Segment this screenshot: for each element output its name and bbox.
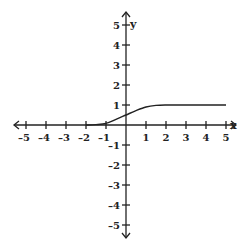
x-tick-label: 1: [143, 132, 150, 143]
x-tick-label: –4: [38, 132, 50, 143]
y-tick-label: 5: [113, 20, 120, 31]
y-tick-label: –3: [108, 180, 120, 191]
x-tick-label: –5: [18, 132, 30, 143]
x-tick-label: 4: [203, 132, 210, 143]
x-tick-label: 2: [163, 132, 170, 143]
y-tick-label: 4: [113, 40, 120, 51]
y-tick-label: –2: [108, 160, 120, 171]
x-axis-label: x: [230, 119, 237, 132]
y-tick-label: –1: [108, 140, 120, 151]
x-tick-label: 3: [183, 132, 190, 143]
y-tick-label: –5: [108, 220, 120, 231]
y-tick-label: 1: [113, 100, 120, 111]
y-axis-label: y: [129, 18, 137, 31]
x-tick-label: –2: [78, 132, 90, 143]
function-graph: –5–4–3–2–11234554321–1–2–3–4–5 x y: [0, 0, 250, 252]
function-curve: [86, 105, 226, 125]
axes: [14, 12, 236, 238]
y-tick-label: 2: [113, 80, 120, 91]
x-tick-label: 5: [223, 132, 230, 143]
x-tick-label: –3: [58, 132, 70, 143]
y-tick-label: 3: [113, 60, 120, 71]
y-tick-label: –4: [108, 200, 120, 211]
